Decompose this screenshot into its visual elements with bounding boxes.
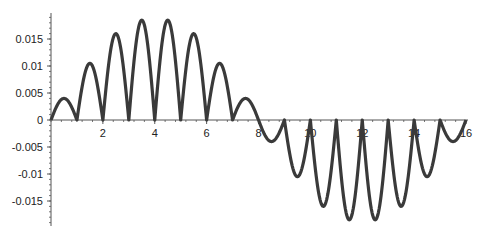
- y-axis: 0.0150.010.0050-0.005-0.01-0.015: [12, 13, 51, 226]
- line-chart: 0.0150.010.0050-0.005-0.01-0.015 2468101…: [0, 0, 483, 236]
- x-tick-label: 6: [204, 127, 210, 139]
- y-tick-label: 0.01: [22, 60, 43, 72]
- y-tick-label: 0.015: [15, 33, 43, 45]
- y-tick-label: 0: [37, 114, 43, 126]
- y-tick-label: -0.01: [18, 168, 43, 180]
- x-tick-label: 4: [152, 127, 158, 139]
- y-tick-label: -0.005: [12, 141, 43, 153]
- y-tick-label: 0.005: [15, 87, 43, 99]
- x-tick-label: 2: [100, 127, 106, 139]
- y-tick-label: -0.015: [12, 195, 43, 207]
